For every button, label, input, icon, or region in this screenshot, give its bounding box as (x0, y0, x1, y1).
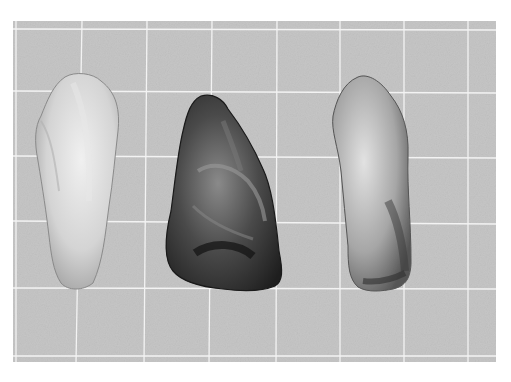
photograph (13, 21, 496, 362)
photo-canvas (13, 21, 496, 362)
